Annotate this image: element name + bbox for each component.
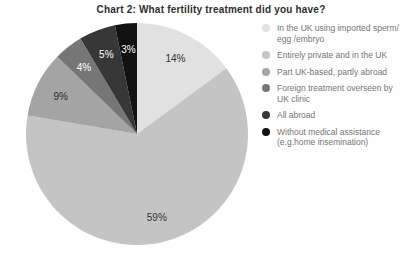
legend-item-4: All abroad	[262, 110, 410, 121]
pie-slice-label-4: 5%	[99, 49, 113, 60]
legend-swatch-icon	[262, 111, 270, 119]
legend-item-3: Foreign treatment overseen by UK clinic	[262, 83, 410, 104]
legend-swatch-icon	[262, 68, 270, 76]
pie-slice-label-3: 4%	[77, 61, 91, 72]
legend-item-5: Without medical assistance (e.g.home ins…	[262, 127, 410, 148]
legend-label-0: In the UK using imported sperm/ egg /emb…	[277, 23, 403, 44]
legend-swatch-icon	[262, 24, 270, 32]
legend-swatch-icon	[262, 51, 270, 59]
pie-slice-label-0: 14%	[165, 52, 185, 63]
legend-label-3: Foreign treatment overseen by UK clinic	[277, 83, 403, 104]
pie-slice-label-5: 3%	[121, 44, 135, 55]
legend-label-4: All abroad	[277, 110, 403, 121]
legend-item-2: Part UK-based, partly abroad	[262, 67, 410, 78]
legend-swatch-icon	[262, 128, 270, 136]
legend-swatch-icon	[262, 84, 270, 92]
legend-item-0: In the UK using imported sperm/ egg /emb…	[262, 23, 410, 44]
legend-label-2: Part UK-based, partly abroad	[277, 67, 403, 78]
pie-slice-label-2: 9%	[53, 90, 67, 101]
chart-canvas: Chart 2: What fertility treatment did yo…	[0, 0, 414, 254]
chart-legend: In the UK using imported sperm/ egg /emb…	[262, 23, 410, 148]
legend-label-1: Entirely private and in the UK	[277, 50, 403, 61]
legend-item-1: Entirely private and in the UK	[262, 50, 410, 61]
pie-slice-label-1: 59%	[147, 212, 167, 223]
legend-label-5: Without medical assistance (e.g.home ins…	[277, 127, 403, 148]
